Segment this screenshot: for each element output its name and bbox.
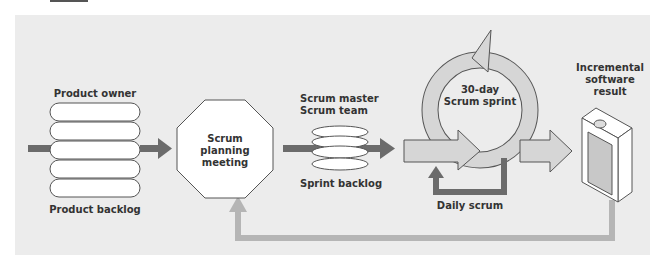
planning-line-2: planning: [177, 145, 273, 157]
planning-meeting-label: Scrum planning meeting: [177, 133, 273, 169]
sprint-line-1: 30-day: [440, 84, 520, 96]
product-owner-label: Product owner: [50, 88, 140, 100]
sprint-backlog-label: Sprint backlog: [300, 178, 380, 190]
sprint-backlog-stack: [312, 126, 368, 170]
product-backlog-label: Product backlog: [45, 204, 145, 216]
result-label: Incremental software result: [575, 62, 645, 98]
scrum-process-diagram: [0, 0, 662, 268]
planning-line-1: Scrum: [177, 133, 273, 145]
result-line-2: software: [575, 74, 645, 86]
sprint-line-2: Scrum sprint: [440, 96, 520, 108]
sprint-label: 30-day Scrum sprint: [440, 84, 520, 108]
result-line-3: result: [575, 86, 645, 98]
product-backlog-stack: [50, 103, 140, 197]
planning-line-3: meeting: [177, 157, 273, 169]
scrum-master-label: Scrum master: [300, 93, 380, 105]
feedback-loop-arrow: [238, 200, 612, 238]
software-box: [582, 108, 632, 202]
scrum-roles-label: Scrum master Scrum team: [300, 93, 380, 117]
scrum-team-label: Scrum team: [300, 105, 380, 117]
daily-scrum-label: Daily scrum: [430, 200, 510, 212]
result-line-1: Incremental: [575, 62, 645, 74]
